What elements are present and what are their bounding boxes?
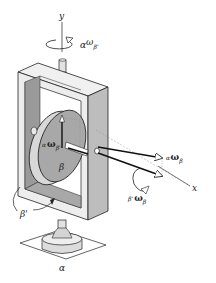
right-omega-label: αωβ [166, 152, 183, 165]
gimbal-diagram: y αωβ' [0, 0, 216, 283]
base-body-label: α [59, 263, 65, 273]
x-axis-label: x [192, 183, 197, 193]
top-omega-label: αωβ' [80, 37, 99, 51]
frame-body-label: β' [19, 209, 28, 219]
top-rotation-arrow-icon [46, 37, 73, 49]
y-axis-label: y [58, 11, 65, 21]
base-alpha [20, 228, 106, 259]
disk-body-label: β [58, 162, 64, 172]
lower-omega-label: β'ωβ [127, 193, 147, 206]
x-rotation-arrow-icon [133, 168, 149, 194]
